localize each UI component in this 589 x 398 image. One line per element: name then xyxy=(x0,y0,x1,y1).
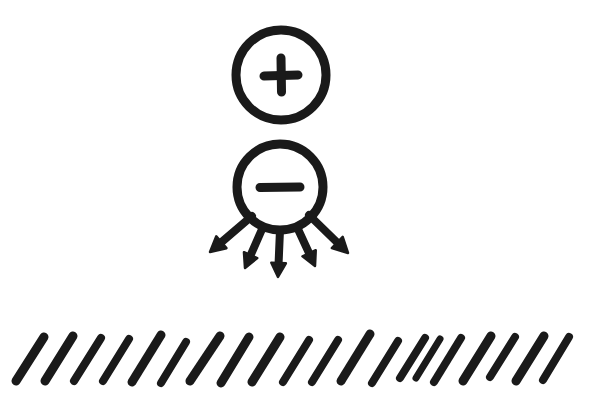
diagram-background xyxy=(0,0,589,398)
minus-icon xyxy=(260,187,300,188)
minus-bar-stroke xyxy=(260,187,300,188)
plus-vertical-stroke xyxy=(281,58,282,92)
figure-canvas: Electrostatic induction sketch Hand-draw… xyxy=(0,0,589,398)
charge-field-diagram: Electrostatic induction sketch Hand-draw… xyxy=(0,0,589,398)
